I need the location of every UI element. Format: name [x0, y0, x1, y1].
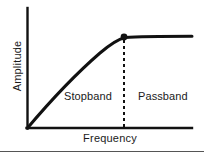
- cutoff-point-marker: [121, 34, 128, 41]
- stopband-region-label: Stopband: [64, 90, 112, 102]
- x-axis-title: Frequency: [27, 132, 193, 144]
- y-axis-title: Amplitude: [11, 26, 23, 106]
- filter-response-figure: Amplitude Frequency Stopband Passband: [0, 0, 204, 152]
- amplitude-response-curve: [28, 36, 193, 128]
- passband-region-label: Passband: [138, 90, 188, 102]
- plot-canvas: [0, 0, 204, 152]
